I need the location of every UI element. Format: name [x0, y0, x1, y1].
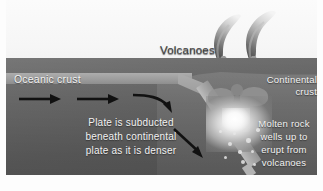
magma-bubble — [256, 128, 260, 132]
plate-motion-arrow-2-icon — [76, 93, 120, 105]
plate-motion-arrow-1-icon — [18, 93, 62, 105]
magma-chamber-core — [222, 108, 250, 132]
ash-plume-right-icon — [228, 8, 276, 62]
subduction-descent-arrow-icon — [172, 126, 212, 164]
oceanic-crust-slab — [6, 73, 192, 84]
frame-margin-right — [317, 0, 323, 191]
magma-bubble — [241, 160, 245, 164]
frame-margin-bottom — [0, 175, 323, 191]
magma-bubble — [253, 163, 256, 166]
magma-bubble — [219, 130, 222, 133]
frame-margin-left — [0, 0, 6, 191]
subduction-diagram: Volcanoes Oceanic crust Continental crus… — [0, 0, 323, 191]
magma-bubble — [228, 142, 232, 146]
magma-pocket-center — [231, 84, 243, 96]
magma-bubble — [224, 156, 227, 159]
plate-motion-arrow-3-icon — [132, 90, 180, 116]
magma-bubble — [251, 150, 254, 153]
magma-bubble — [238, 150, 242, 154]
magma-bubble — [246, 138, 251, 143]
magma-bubble — [233, 132, 236, 135]
